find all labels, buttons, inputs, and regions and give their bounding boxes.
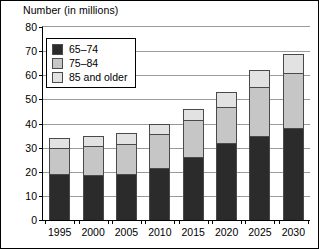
legend-swatch-icon <box>52 72 63 83</box>
bar-segment <box>183 109 204 120</box>
bar-segment <box>49 148 70 175</box>
x-tick-mark <box>274 220 275 224</box>
chart-figure: Number (in millions) 01020304050607080 1… <box>0 0 319 249</box>
legend-item: 85 and older <box>52 71 127 83</box>
x-tick-label: 2005 <box>115 226 138 238</box>
x-tick-label: 2000 <box>81 226 104 238</box>
x-tick-mark <box>245 220 246 224</box>
y-tick-label: 10 <box>25 190 37 202</box>
x-tick-label: 2010 <box>148 226 171 238</box>
y-tick-mark <box>39 196 43 197</box>
x-tick-mark <box>74 220 75 224</box>
bar-segment <box>83 175 104 220</box>
bar-segment <box>49 174 70 220</box>
bar-segment <box>249 70 270 87</box>
bar-2015 <box>183 109 204 220</box>
legend-label: 65–74 <box>69 43 98 55</box>
bar-segment <box>283 54 304 73</box>
bar-segment <box>116 144 137 174</box>
bar-1995 <box>49 138 70 220</box>
bar-2000 <box>83 136 104 220</box>
bar-segment <box>183 120 204 157</box>
y-tick-label: 50 <box>25 93 37 105</box>
bar-segment <box>83 146 104 175</box>
y-tick-label: 20 <box>25 166 37 178</box>
x-tick-mark <box>279 220 280 224</box>
x-tick-mark <box>208 220 209 224</box>
bar-segment <box>216 107 237 143</box>
y-tick-mark <box>39 172 43 173</box>
bar-2020 <box>216 92 237 220</box>
y-tick-mark <box>39 220 43 221</box>
y-tick-label: 80 <box>25 21 37 33</box>
bar-segment <box>116 133 137 144</box>
legend-label: 75–84 <box>69 57 98 69</box>
y-tick-mark <box>39 99 43 100</box>
y-tick-mark <box>39 124 43 125</box>
x-tick-mark <box>79 220 80 224</box>
x-tick-label: 2015 <box>182 226 205 238</box>
bar-segment <box>149 168 170 220</box>
x-tick-mark <box>212 220 213 224</box>
bar-2005 <box>116 133 137 220</box>
x-tick-mark <box>145 220 146 224</box>
y-tick-label: 60 <box>25 69 37 81</box>
bar-segment <box>149 134 170 168</box>
x-tick-label: 1995 <box>48 226 71 238</box>
y-tick-mark <box>39 51 43 52</box>
x-tick-label: 2025 <box>248 226 271 238</box>
y-tick-mark <box>39 148 43 149</box>
x-tick-mark <box>308 220 309 224</box>
bar-segment <box>283 73 304 128</box>
x-tick-label: 2020 <box>215 226 238 238</box>
y-tick-label: 40 <box>25 118 37 130</box>
bar-segment <box>83 136 104 147</box>
chart-legend: 65–7475–8485 and older <box>46 38 136 88</box>
x-tick-mark <box>108 220 109 224</box>
x-tick-label: 2030 <box>282 226 305 238</box>
y-tick-label: 70 <box>25 45 37 57</box>
legend-item: 75–84 <box>52 57 127 69</box>
x-tick-mark <box>112 220 113 224</box>
x-tick-mark <box>45 220 46 224</box>
x-tick-mark <box>174 220 175 224</box>
bar-2030 <box>283 54 304 220</box>
y-tick-mark <box>39 27 43 28</box>
y-tick-mark <box>39 75 43 76</box>
bar-segment <box>249 87 270 135</box>
bar-segment <box>283 128 304 220</box>
legend-swatch-icon <box>52 44 63 55</box>
x-tick-mark <box>141 220 142 224</box>
legend-label: 85 and older <box>69 71 127 83</box>
bar-segment <box>216 92 237 106</box>
legend-swatch-icon <box>52 58 63 69</box>
bar-segment <box>216 143 237 220</box>
bar-2025 <box>249 70 270 220</box>
y-tick-label: 30 <box>25 142 37 154</box>
legend-item: 65–74 <box>52 43 127 55</box>
x-tick-mark <box>241 220 242 224</box>
y-axis-title: Number (in millions) <box>23 4 118 16</box>
bar-2010 <box>149 124 170 221</box>
y-tick-label: 0 <box>31 214 37 226</box>
bar-segment <box>249 136 270 220</box>
bar-segment <box>183 157 204 220</box>
bar-segment <box>49 138 70 148</box>
bar-segment <box>149 124 170 135</box>
x-tick-mark <box>179 220 180 224</box>
bar-segment <box>116 174 137 220</box>
